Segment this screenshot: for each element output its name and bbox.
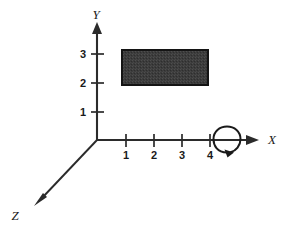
z-axis-label: Z [11,208,19,223]
y-tick-label-1: 1 [80,106,86,118]
x-tick-label-1: 1 [123,149,129,161]
x-axis-label: X [267,132,277,147]
y-tick-label-2: 2 [80,77,86,89]
x-tick-label-4: 4 [207,149,214,161]
y-tick-label-3: 3 [80,48,86,60]
shaded-rectangle [122,50,208,85]
shaded-rectangle-body [122,50,208,85]
x-tick-label-2: 2 [151,149,157,161]
coordinate-axes-figure: 3 2 1 Y 1 2 3 4 X Z [0,0,294,231]
figure-canvas: 3 2 1 Y 1 2 3 4 X Z [0,0,294,231]
x-tick-label-3: 3 [179,149,185,161]
